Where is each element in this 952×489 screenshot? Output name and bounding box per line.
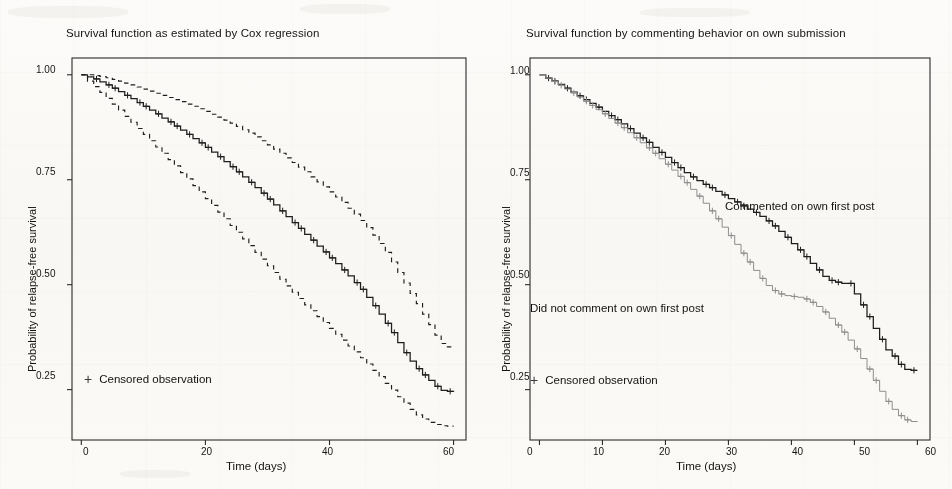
survival-analysis-figure: Survival function as estimated by Cox re… (0, 0, 952, 489)
scan-smudge (640, 8, 750, 17)
panel-commenting-behavior: Survival function by commenting behavior… (476, 0, 952, 489)
scan-smudge (300, 4, 390, 14)
scan-smudge (8, 6, 128, 18)
panel-cox-regression: Survival function as estimated by Cox re… (0, 0, 476, 489)
plot-area-left (0, 0, 476, 489)
plot-area-right (476, 0, 952, 489)
scan-smudge (120, 470, 190, 478)
